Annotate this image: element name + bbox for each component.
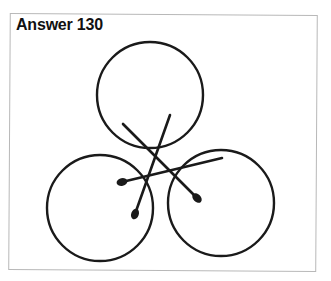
circles-and-matches-diagram xyxy=(0,0,331,281)
top-circle xyxy=(97,42,203,148)
match-head xyxy=(116,177,128,187)
circles-group xyxy=(47,42,274,261)
match-head xyxy=(130,208,141,221)
match-c xyxy=(116,158,222,187)
